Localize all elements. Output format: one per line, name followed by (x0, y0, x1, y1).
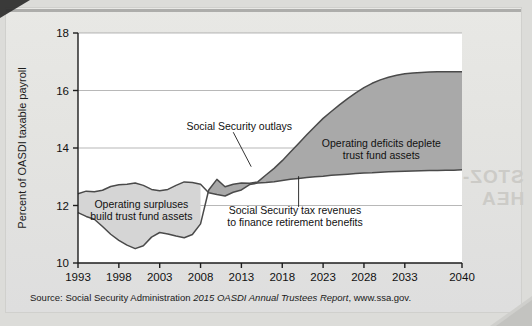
x-tick-label: 2040 (449, 271, 475, 282)
source-prefix: Source: Social Security Administration (30, 292, 193, 303)
source-report-title: 2015 OASDI Annual Trustees Report (193, 292, 348, 303)
y-tick-label: 18 (56, 27, 69, 39)
y-axis-title: Percent of OASDI taxable payroll (16, 67, 28, 228)
revenues-annotation: Social Security tax revenuesto finance r… (227, 204, 362, 229)
page-corner-bottom-right-shadow (496, 300, 532, 326)
x-tick-label: 2028 (351, 271, 377, 282)
surplus-annotation: Operating surplusesbuild trust fund asse… (90, 198, 192, 223)
scanned-page: STOZ- HEA 101214161819931998200320082013… (0, 0, 532, 326)
y-tick-label: 10 (56, 257, 69, 269)
x-tick-label: 2003 (147, 271, 173, 282)
x-tick-label: 2018 (269, 271, 295, 282)
y-axis-label: Percent of OASDI taxable payroll (16, 67, 28, 228)
y-tick-label: 12 (56, 200, 69, 212)
y-tick-label: 16 (56, 85, 69, 97)
outlays-annotation: Social Security outlays (186, 120, 292, 132)
x-tick-label: 1998 (106, 271, 132, 282)
chart-figure: 1012141618199319982003200820132018202320… (10, 14, 502, 282)
social-security-area-chart: 1012141618199319982003200820132018202320… (10, 14, 502, 282)
y-tick-label: 14 (56, 142, 69, 154)
x-tick-label: 1993 (65, 271, 91, 282)
x-tick-label: 2033 (392, 271, 418, 282)
x-tick-label: 2023 (310, 271, 336, 282)
x-tick-label: 2008 (188, 271, 214, 282)
x-tick-label: 2013 (229, 271, 255, 282)
source-suffix: , www.ssa.gov. (348, 292, 411, 303)
page-top-rule (6, 9, 521, 12)
source-note: Source: Social Security Administration 2… (30, 292, 500, 303)
